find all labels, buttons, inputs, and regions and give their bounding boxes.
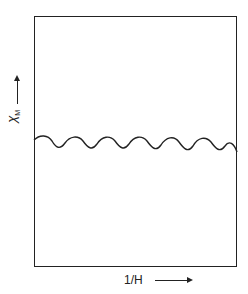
y-axis-label: χM <box>4 110 21 123</box>
y-axis-arrow-icon <box>17 80 18 104</box>
chi-curve <box>0 0 248 294</box>
x-axis-label: 1/H <box>124 273 143 287</box>
x-axis-arrow-icon <box>155 280 191 281</box>
